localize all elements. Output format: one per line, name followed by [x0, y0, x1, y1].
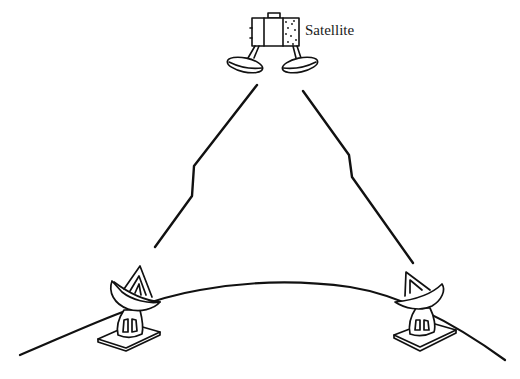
signal-link-left — [155, 85, 257, 247]
signal-link-right — [303, 91, 413, 263]
dish-antenna-icon-right — [394, 272, 456, 351]
diagram-canvas: Satellite — [0, 0, 520, 379]
diagram-svg — [0, 0, 520, 379]
satellite-label: Satellite — [305, 22, 354, 39]
dish-antenna-icon-left — [98, 266, 160, 351]
